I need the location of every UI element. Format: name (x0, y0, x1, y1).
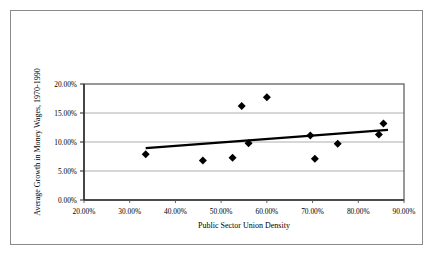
x-tick-label: 90.00% (393, 207, 416, 216)
chart-figure: 0.00%5.00%10.00%15.00%20.00% 20.00%30.00… (0, 0, 435, 257)
x-tick-label: 80.00% (347, 207, 370, 216)
x-tick-label: 50.00% (210, 207, 233, 216)
x-tick-label: 60.00% (255, 207, 278, 216)
y-tick-label: 0.00% (58, 196, 77, 205)
y-axis-tick-labels: 0.00%5.00%10.00%15.00%20.00% (54, 80, 77, 205)
x-tick-label: 70.00% (301, 207, 324, 216)
scatter-plot: 0.00%5.00%10.00%15.00%20.00% 20.00%30.00… (0, 0, 435, 257)
x-tick-label: 20.00% (73, 207, 96, 216)
y-axis-title: Average Growth in Money Wages, 1970-1990 (33, 68, 42, 215)
x-tick-label: 40.00% (164, 207, 187, 216)
x-axis-tick-labels: 20.00%30.00%40.00%50.00%60.00%70.00%80.0… (73, 207, 416, 216)
y-tick-label: 10.00% (54, 138, 77, 147)
y-tick-label: 15.00% (54, 109, 77, 118)
x-tick-label: 30.00% (118, 207, 141, 216)
y-tick-label: 5.00% (58, 167, 77, 176)
x-axis-title: Public Sector Union Density (198, 221, 290, 230)
y-tick-label: 20.00% (54, 80, 77, 89)
